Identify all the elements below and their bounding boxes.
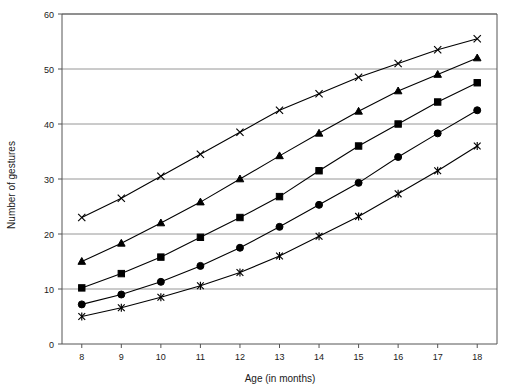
data-point [395, 154, 402, 161]
circle-marker [474, 107, 481, 114]
y-tick-label: 30 [44, 175, 54, 185]
x-tick-label: 14 [314, 352, 324, 362]
square-marker [158, 254, 164, 260]
data-point [118, 270, 124, 276]
y-tick-label: 20 [44, 230, 54, 240]
data-point [355, 179, 362, 186]
data-point [395, 121, 401, 127]
circle-marker [434, 130, 441, 137]
x-tick-label: 8 [79, 352, 84, 362]
line-chart: 89101112131415161718 0102030405060 Age (… [0, 0, 514, 390]
data-point [118, 291, 125, 298]
data-point [316, 168, 322, 174]
data-point [78, 301, 85, 308]
data-point [434, 130, 441, 137]
y-tick-label: 50 [44, 65, 54, 75]
x-tick-label: 9 [119, 352, 124, 362]
data-point [434, 99, 440, 105]
x-tick-label: 17 [433, 352, 443, 362]
circle-marker [236, 244, 243, 251]
circle-marker [78, 301, 85, 308]
data-point [474, 107, 481, 114]
circle-marker [118, 291, 125, 298]
data-point [197, 234, 203, 240]
data-point [158, 254, 164, 260]
chart-background [0, 0, 514, 390]
y-tick-label: 40 [44, 120, 54, 130]
data-point [237, 214, 243, 220]
data-point [197, 262, 204, 269]
circle-marker [197, 262, 204, 269]
y-tick-label: 60 [44, 10, 54, 20]
square-marker [276, 193, 282, 199]
square-marker [197, 234, 203, 240]
data-point [316, 201, 323, 208]
square-marker [118, 270, 124, 276]
circle-marker [276, 223, 283, 230]
y-tick-label: 10 [44, 285, 54, 295]
circle-marker [355, 179, 362, 186]
x-tick-label: 15 [354, 352, 364, 362]
x-tick-label: 13 [274, 352, 284, 362]
data-point [474, 80, 480, 86]
x-axis-title: Age (in months) [245, 373, 316, 384]
x-tick-label: 12 [235, 352, 245, 362]
y-tick-label: 0 [49, 340, 54, 350]
square-marker [434, 99, 440, 105]
square-marker [237, 214, 243, 220]
x-tick-label: 11 [196, 352, 205, 362]
circle-marker [316, 201, 323, 208]
square-marker [474, 80, 480, 86]
data-point [276, 223, 283, 230]
data-point [276, 193, 282, 199]
square-marker [79, 285, 85, 291]
data-point [355, 143, 361, 149]
chart-container: 89101112131415161718 0102030405060 Age (… [0, 0, 514, 390]
data-point [236, 244, 243, 251]
circle-marker [157, 278, 164, 285]
circle-marker [395, 154, 402, 161]
square-marker [316, 168, 322, 174]
x-tick-label: 18 [472, 352, 482, 362]
square-marker [395, 121, 401, 127]
x-tick-label: 16 [393, 352, 403, 362]
square-marker [355, 143, 361, 149]
y-axis-title: Number of gestures [6, 141, 17, 229]
x-tick-label: 10 [156, 352, 166, 362]
data-point [157, 278, 164, 285]
data-point [79, 285, 85, 291]
